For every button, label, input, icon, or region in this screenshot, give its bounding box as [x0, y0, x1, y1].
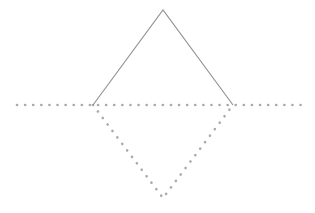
diagram-canvas [0, 0, 315, 213]
geometry-figure [0, 0, 315, 213]
canvas-background [0, 0, 315, 213]
